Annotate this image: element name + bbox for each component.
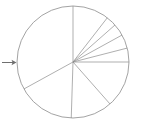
chart-canvas bbox=[0, 0, 144, 126]
pie-slice-boundary bbox=[73, 62, 110, 104]
pie-slice-boundary bbox=[73, 35, 122, 62]
pie-slice-boundary bbox=[71, 62, 73, 118]
transform-arrow bbox=[2, 60, 17, 65]
pie-diagram bbox=[17, 6, 129, 118]
pie-chart-figure bbox=[0, 0, 144, 126]
pie-slice-boundary bbox=[73, 18, 107, 62]
pie-slice-boundary bbox=[24, 62, 73, 89]
